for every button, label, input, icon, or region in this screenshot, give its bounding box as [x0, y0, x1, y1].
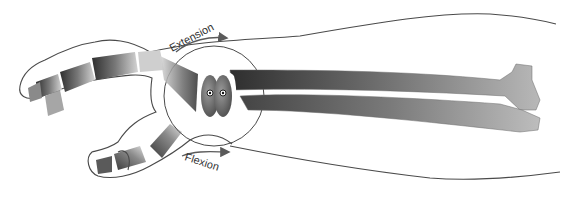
- thumb: [96, 124, 182, 174]
- wrist-motion-diagram: Extension Flexion: [0, 0, 576, 197]
- ulna-bone: [240, 95, 540, 132]
- flexion-label: Flexion: [183, 150, 220, 172]
- finger-phalanges: [28, 50, 164, 116]
- extension-label: Extension: [167, 20, 215, 53]
- carpal-bones: [195, 70, 236, 121]
- forearm-outline-lower: [230, 146, 560, 179]
